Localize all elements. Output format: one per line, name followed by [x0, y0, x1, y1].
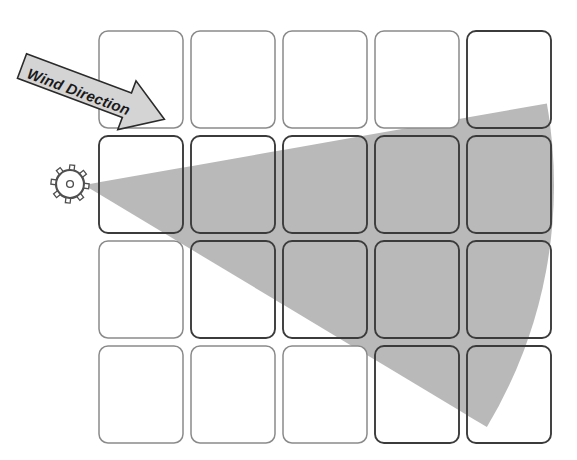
- grid-cell-background: [191, 31, 275, 128]
- grid-cell-background: [99, 346, 183, 443]
- sensor-vane-nub: [69, 165, 74, 170]
- sensor-vane-nub: [51, 179, 56, 184]
- anemometer-sensor-icon: [51, 165, 89, 203]
- wind-diagram-figure: Wind Direction: [0, 0, 577, 460]
- grid-cell-background: [283, 346, 367, 443]
- sensor-vane-nub: [65, 198, 70, 203]
- grid-cell-background: [375, 31, 459, 128]
- grid-cell-background: [99, 241, 183, 338]
- sensor-vane-nub: [84, 183, 89, 188]
- diagram-canvas: [0, 0, 577, 460]
- sensor-hub: [67, 181, 74, 188]
- grid-cell-background: [283, 31, 367, 128]
- grid-cell-background: [191, 346, 275, 443]
